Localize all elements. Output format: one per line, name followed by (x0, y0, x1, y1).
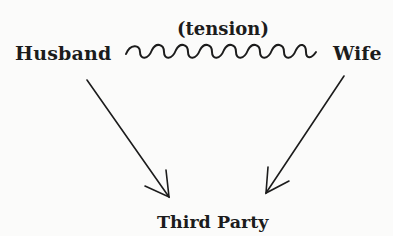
wavy-tension-line (126, 45, 316, 58)
arrow-husband-to-third-party (87, 80, 169, 197)
arrow-wife-to-third-party (266, 76, 344, 193)
diagram-edges (0, 0, 393, 236)
